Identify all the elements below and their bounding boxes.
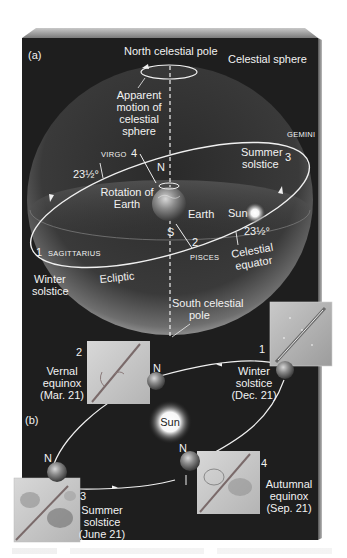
virgo-label: VIRGO xyxy=(101,150,127,159)
sun-label-a: Sun xyxy=(228,207,248,219)
winter-solstice-photo xyxy=(270,302,332,366)
earth-autumnal-equinox xyxy=(180,451,200,471)
season-2-number: 2 xyxy=(76,346,82,358)
panel-a-tag: (a) xyxy=(28,49,41,61)
season-1-name-line-2: solstice xyxy=(236,377,273,389)
tilt-right-label: 23½° xyxy=(244,225,270,237)
earth-vernal-equinox xyxy=(147,372,165,390)
panel-top-face xyxy=(22,28,318,38)
north-marker-summer: N xyxy=(44,452,52,464)
autumnal-equinox-photo xyxy=(197,451,260,514)
faded-caption-area xyxy=(12,548,332,554)
season-3-date: (June 21) xyxy=(79,528,125,540)
season-1-number: 1 xyxy=(259,343,265,355)
summer-solstice-label-a-line-1: Summer xyxy=(241,146,283,158)
north-marker-vernal: N xyxy=(153,362,161,374)
south-celestial-pole-line-1: South celestial xyxy=(172,297,244,309)
celestial-sphere-figure: (a) North celestial pole Celestial spher… xyxy=(0,0,347,558)
season-2-name-line-1: Vernal xyxy=(46,365,77,377)
position-1-number: 1 xyxy=(36,246,42,258)
earth-summer-solstice xyxy=(47,462,67,482)
earth-label: Earth xyxy=(188,208,214,220)
gemini-label: GEMINI xyxy=(287,130,315,139)
winter-solstice-label-a-line-2: solstice xyxy=(32,285,69,297)
north-marker-autumn: N xyxy=(179,442,187,454)
position-2-number: 2 xyxy=(192,236,198,248)
south-celestial-pole-line-2: pole xyxy=(189,309,210,321)
earth-winter-solstice xyxy=(276,361,294,379)
season-4-number: 4 xyxy=(261,457,267,469)
summer-solstice-photo xyxy=(14,478,80,542)
apparent-motion-line-3: celestial xyxy=(119,113,159,125)
winter-solstice-label-a-line-1: Winter xyxy=(34,273,66,285)
apparent-motion-line-1: Apparent xyxy=(117,89,162,101)
season-3-number: 3 xyxy=(80,490,86,502)
vernal-equinox-photo xyxy=(87,341,150,404)
celestial-sphere-label: Celestial sphere xyxy=(228,53,307,65)
season-2-name-line-2: equinox xyxy=(43,377,82,389)
north-celestial-pole-label: North celestial pole xyxy=(124,45,218,57)
season-4-date: (Sep. 21) xyxy=(266,502,311,514)
season-4-name-line-2: equinox xyxy=(270,490,309,502)
season-1-date: (Dec. 21) xyxy=(231,389,276,401)
sagittarius-label: SAGITTARIUS xyxy=(48,249,101,258)
season-1-name-line-1: Winter xyxy=(238,365,270,377)
apparent-motion-line-2: motion of xyxy=(116,101,162,113)
season-4-name-line-1: Autumnal xyxy=(266,478,312,490)
position-4-number: 4 xyxy=(131,147,137,159)
rotation-of-earth-line-1: Rotation of xyxy=(100,186,154,198)
sun-label-b: Sun xyxy=(160,416,180,428)
summer-solstice-label-a-line-2: solstice xyxy=(242,158,279,170)
tilt-left-label: 23½° xyxy=(73,168,99,180)
season-3-name-line-1: Summer xyxy=(81,504,123,516)
north-marker-a: N xyxy=(157,161,165,173)
season-3-name-line-2: solstice xyxy=(84,516,121,528)
pisces-label: PISCES xyxy=(190,253,219,262)
panel-b-tag: (b) xyxy=(25,414,38,426)
south-marker-a: S xyxy=(167,226,174,238)
position-3-number: 3 xyxy=(285,151,291,163)
season-2-date: (Mar. 21) xyxy=(40,389,84,401)
rotation-of-earth-line-2: Earth xyxy=(114,198,140,210)
panel-side-face xyxy=(318,38,322,540)
apparent-motion-line-4: sphere xyxy=(122,125,156,137)
